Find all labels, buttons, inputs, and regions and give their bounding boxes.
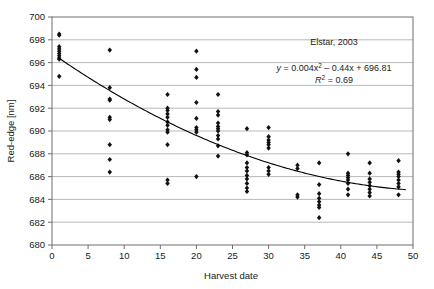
r-squared-value: = 0.69 [325,75,353,85]
y-axis-ticks: 680682684686688690692694696698700 [29,11,52,250]
data-point [317,215,321,220]
data-point [245,189,249,194]
data-point [216,136,220,141]
data-point [108,169,112,174]
data-point [108,47,112,52]
x-tick-label: 20 [191,250,202,261]
data-point [346,192,350,197]
x-tick-label: 45 [372,250,383,261]
y-tick-label: 680 [29,239,45,250]
data-point [216,92,220,97]
data-point [194,174,198,179]
data-point [266,146,270,151]
x-tick-label: 35 [299,250,310,261]
x-tick-label: 0 [49,250,54,261]
data-point [165,115,169,120]
x-axis-ticks: 05101520253035404550 [49,245,418,261]
y-tick-label: 696 [29,57,45,68]
data-point [165,142,169,147]
data-point [57,74,61,79]
x-tick-label: 5 [85,250,90,261]
equation-tail: – 0.44x + 696.81 [322,63,392,73]
data-point [346,187,350,192]
data-point [194,49,198,54]
x-tick-label: 10 [119,250,130,261]
data-point [317,191,321,196]
data-point [194,116,198,121]
data-points [57,32,401,221]
y-tick-label: 686 [29,171,45,182]
fit-curve [59,58,406,189]
y-tick-label: 692 [29,103,45,114]
data-point [165,181,169,186]
chart-container: 05101520253035404550 6806826846866886906… [0,0,434,289]
x-tick-label: 30 [263,250,274,261]
y-tick-label: 690 [29,125,45,136]
data-point [194,67,198,72]
equation-body: = 0.004x [281,63,319,73]
trend-line [59,58,406,189]
data-point [216,112,220,117]
data-point [245,160,249,165]
data-point [194,100,198,105]
data-point [245,181,249,186]
data-point [165,123,169,128]
data-point [165,92,169,97]
y-tick-label: 700 [29,11,45,22]
data-point [367,193,371,198]
scatter-plot: 05101520253035404550 6806826846866886906… [0,0,434,289]
data-point [108,157,112,162]
y-tick-label: 682 [29,217,45,228]
data-point [108,142,112,147]
x-tick-label: 40 [336,250,347,261]
data-point [266,125,270,130]
data-point [317,182,321,187]
data-point [317,160,321,165]
data-point [194,75,198,80]
x-tick-label: 25 [227,250,238,261]
x-tick-label: 15 [155,250,166,261]
data-point [367,171,371,176]
data-point [367,160,371,165]
data-point [346,151,350,156]
y-axis-title: Red-edge [nm] [5,100,16,163]
r-squared-annotation: R2 = 0.69 [315,74,353,86]
data-point [396,158,400,163]
y-tick-label: 684 [29,194,45,205]
y-tick-label: 698 [29,34,45,45]
data-point [245,168,249,173]
y-tick-label: 688 [29,148,45,159]
sample-annotation: Elstar, 2003 [310,37,358,47]
x-axis-title: Harvest date [204,270,258,281]
y-tick-label: 694 [29,80,45,91]
x-tick-label: 50 [408,250,419,261]
data-point [396,192,400,197]
equation-annotation: y = 0.004x2 – 0.44x + 696.81 [275,62,391,74]
